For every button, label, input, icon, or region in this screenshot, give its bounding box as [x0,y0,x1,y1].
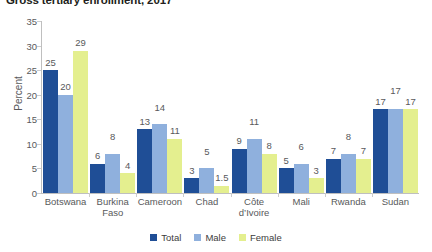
y-axis-tick-label: 35 [26,16,37,27]
bar-slot: 8 [262,21,277,193]
bar-slot: 4 [120,21,135,193]
bar-slot: 17 [373,21,388,193]
bar-value-label: 13 [140,117,151,127]
bar-value-label: 11 [249,117,259,127]
legend-item[interactable]: Female [239,232,282,243]
bar[interactable] [199,168,214,193]
bar[interactable] [137,129,152,193]
bar-value-label: 17 [405,97,416,107]
bar-slot: 8 [105,21,120,193]
bar-group: 684 [89,21,136,193]
bar-group: 563 [278,21,325,193]
y-axis-tick-label: 20 [26,89,37,100]
bar-slot: 5 [199,21,214,193]
bar[interactable] [43,70,58,193]
x-axis-category-label: Botswana [42,197,89,218]
x-axis-category-label: BurkinaFaso [89,197,136,218]
x-axis-category-labels: BotswanaBurkinaFasoCameroonChadCôted’Ivo… [42,197,419,218]
bar[interactable] [309,178,324,193]
bar-group: 171717 [372,21,419,193]
x-axis-category-label-line: Botswana [42,197,89,208]
bar[interactable] [356,159,371,193]
bar[interactable] [152,124,167,193]
bar[interactable] [341,154,356,193]
bar[interactable] [247,139,262,193]
legend-item[interactable]: Male [194,232,226,243]
bar-slot: 8 [341,21,356,193]
x-axis-group-separator [278,193,279,197]
bar-slot: 25 [43,21,58,193]
x-axis-category-label: Rwanda [325,197,372,218]
x-axis-category-label-line: Cameroon [136,197,183,208]
bar-slot: 20 [58,21,73,193]
bar-slot: 14 [152,21,167,193]
y-axis-tick-labels: 35302520151050 [0,0,37,214]
bar[interactable] [294,164,309,193]
y-axis-tick-label: 30 [26,40,37,51]
bar[interactable] [279,168,294,193]
bar[interactable] [373,109,388,193]
x-axis-category-label-line: Mali [278,197,325,208]
x-axis-category-label-line: Burkina [89,197,136,208]
chart-legend: TotalMaleFemale [0,232,432,243]
bar[interactable] [214,186,229,193]
bar[interactable] [388,109,403,193]
bar-slot: 17 [388,21,403,193]
bar-slot: 7 [356,21,371,193]
bar[interactable] [184,178,199,193]
x-axis-category-label: Côted’Ivoire [231,197,278,218]
bar-slot: 5 [279,21,294,193]
bar-slot: 29 [73,21,88,193]
bar-value-label: 7 [331,146,336,156]
y-axis-tick-label: 25 [26,65,37,76]
bar[interactable] [262,154,277,193]
x-axis-category-label-line: Chad [183,197,230,208]
bar-group: 131411 [136,21,183,193]
bar-value-label: 17 [375,97,386,107]
bar-value-label: 8 [110,132,115,142]
bar[interactable] [73,51,88,194]
x-axis-category-label-line: Faso [89,208,136,219]
x-axis-category-label-line: Sudan [372,197,419,208]
legend-label: Male [205,232,226,243]
bar-value-label: 1.5 [215,173,228,183]
x-axis-category-label-line: d’Ivoire [231,208,278,219]
x-axis-category-label: Cameroon [136,197,183,218]
bar-slot: 6 [294,21,309,193]
bar-group: 252029 [42,21,89,193]
bar-slot: 7 [326,21,341,193]
bar[interactable] [90,164,105,193]
bar[interactable] [232,149,247,193]
bar[interactable] [58,95,73,193]
bar-slot: 1.5 [214,21,229,193]
bar[interactable] [120,173,135,193]
bar[interactable] [403,109,418,193]
x-axis-category-label: Chad [183,197,230,218]
x-axis-category-label: Sudan [372,197,419,218]
legend-item[interactable]: Total [150,232,181,243]
x-axis-category-label-line: Côte [231,197,278,208]
x-axis-group-separator [231,193,232,197]
legend-label: Total [161,232,181,243]
bar-slot: 6 [90,21,105,193]
bar-value-label: 8 [266,141,271,151]
bar[interactable] [167,139,182,193]
bar-slot: 11 [247,21,262,193]
bar-slot: 9 [232,21,247,193]
bar-value-label: 6 [95,151,100,161]
x-axis-category-label-line: Rwanda [325,197,372,208]
bar-slot: 11 [167,21,182,193]
bar-value-label: 4 [125,161,130,171]
bar-value-label: 11 [170,126,180,136]
x-axis-group-separator [89,193,90,197]
bar-slot: 17 [403,21,418,193]
legend-swatch-icon [239,234,246,241]
bar[interactable] [105,154,120,193]
bar-value-label: 9 [236,136,241,146]
bar-slot: 3 [309,21,324,193]
x-axis-group-separator [136,193,137,197]
bar[interactable] [326,159,341,193]
bar-value-label: 8 [346,132,351,142]
bar-value-label: 3 [189,166,194,176]
bar-value-label: 29 [75,38,86,48]
